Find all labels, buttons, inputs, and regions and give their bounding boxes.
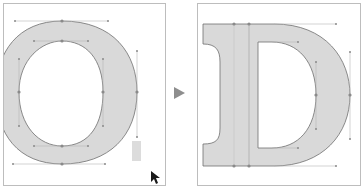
glyph-d-shape [203,24,350,166]
mouse-pointer-icon [151,171,161,185]
glyph-o-shape [4,21,137,164]
source-glyph-panel [3,3,166,186]
selection-artifact [132,141,141,161]
glyph-o-canvas [4,4,166,186]
glyph-d-canvas [198,4,361,186]
transform-arrow-icon [174,87,185,99]
target-glyph-panel [197,3,361,186]
